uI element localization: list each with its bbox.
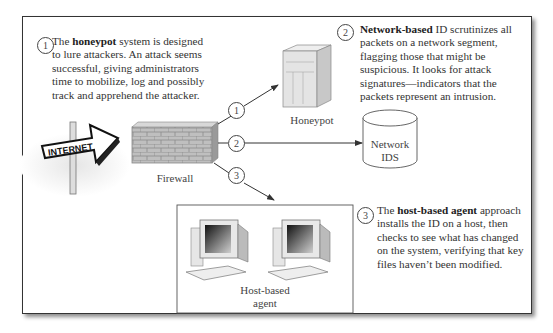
- honeypot-label: Honeypot: [277, 114, 347, 127]
- callout-text: time to mobilize, log and possibly: [52, 75, 252, 88]
- host-agent-label: Host-based agent: [225, 284, 305, 310]
- internet-sign-icon: INTERNET: [20, 122, 130, 197]
- callout-text: packets on a network segment,: [360, 36, 530, 49]
- callout-text: system is designed: [116, 35, 203, 47]
- callout-text: flagging those that might be: [360, 50, 530, 63]
- callout-text: files haven’t been modified.: [377, 258, 532, 271]
- connector-number-3: 3: [228, 167, 245, 184]
- host-agent-label-line2: agent: [225, 297, 305, 310]
- callout-text: checks to see what has changed: [377, 231, 532, 244]
- host-computer-icon: [186, 220, 248, 280]
- callout-honeypot: The honeypot system is designed to lure …: [52, 35, 252, 102]
- callout-term: Network-based: [360, 23, 433, 35]
- callout-network-based: Network-based ID scrutinizes all packets…: [360, 23, 530, 103]
- callout-text: The: [377, 204, 397, 216]
- callout-text: suspicious. It looks for attack: [360, 63, 530, 76]
- callout-text: signatures—indicators that the: [360, 77, 530, 90]
- callout-number-3: 3: [357, 207, 374, 224]
- network-ids-label: Network IDS: [362, 138, 418, 164]
- callout-number-2: 2: [337, 24, 354, 41]
- callout-text: to lure attackers. An attack seems: [52, 48, 252, 61]
- callout-text: The: [52, 35, 72, 47]
- callout-text: on the system, verifying that key: [377, 244, 532, 257]
- callout-text: track and apprehend the attacker.: [52, 89, 252, 102]
- callout-term: honeypot: [72, 35, 116, 47]
- callout-text: packets represent an intrusion.: [360, 90, 530, 103]
- network-ids-label-line2: IDS: [362, 151, 418, 164]
- firewall-icon: [132, 122, 218, 163]
- callout-text: approach: [477, 204, 521, 216]
- connector-number-2: 2: [228, 135, 245, 152]
- host-agent-label-line1: Host-based: [225, 284, 305, 297]
- connector-number-1: 1: [228, 102, 245, 119]
- callout-text: ID scrutinizes all: [433, 23, 512, 35]
- callout-text: installs the ID on a host, then: [377, 217, 532, 230]
- firewall-label: Firewall: [140, 172, 210, 185]
- callout-text: successful, giving administrators: [52, 62, 252, 75]
- callout-term: host-based agent: [397, 204, 477, 216]
- honeypot-server-icon: [283, 45, 331, 107]
- callout-host-based: The host-based agent approach installs t…: [377, 204, 532, 271]
- network-ids-label-line1: Network: [362, 138, 418, 151]
- host-computer-icon: [268, 220, 330, 280]
